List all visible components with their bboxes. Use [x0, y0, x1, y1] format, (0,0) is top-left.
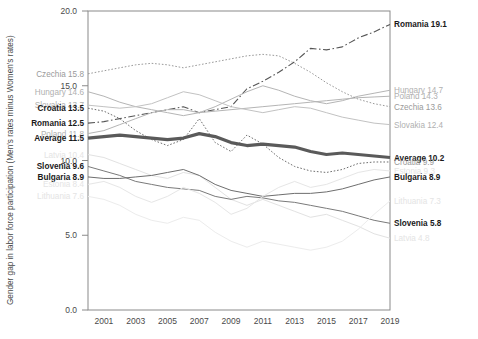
series-line-latvia: [88, 155, 390, 239]
series-label-left: Romania 12.5: [31, 119, 84, 128]
x-tick-label: 2017: [349, 316, 368, 326]
series-line-average: [88, 134, 390, 158]
y-tick-label: 20.0: [60, 6, 77, 16]
x-tick-label: 2011: [254, 316, 273, 326]
right-series-labels: Romania 19.1Hungary 14.7Poland 14.3Czech…: [394, 20, 447, 243]
x-tick-label: 2013: [285, 316, 304, 326]
series-label-left: Average 11.5: [34, 134, 84, 143]
series-label-right: Slovenia 5.8: [394, 219, 442, 228]
series-line-bulgaria: [88, 169, 390, 196]
series-label-left: Slovenia 9.6: [37, 162, 85, 171]
chart-root: Gender gap in labor force participation …: [0, 0, 478, 339]
y-axis-ticks: 0.05.010.015.020.0: [60, 6, 88, 315]
series-label-right: Estonia 9.3: [394, 167, 435, 176]
series-label-left: Estonia 8.4: [43, 180, 84, 189]
x-axis-ticks: 2001200320052007200920112013201520172019: [94, 316, 399, 326]
series-label-right: Czechia 13.6: [394, 103, 442, 112]
series-label-right: Lithuania 7.3: [394, 197, 441, 206]
y-axis-title-text: Gender gap in labor force participation …: [6, 35, 15, 305]
x-tick-label: 2007: [190, 316, 209, 326]
x-tick-label: 2015: [317, 316, 336, 326]
series-line-lithuania: [88, 196, 390, 250]
x-tick-label: 2005: [158, 316, 177, 326]
series-lines: [88, 24, 390, 250]
series-line-poland: [88, 96, 390, 133]
plot-frame: [88, 11, 390, 310]
y-axis-title: Gender gap in labor force participation …: [6, 35, 15, 305]
series-label-right: Latvia 4.8: [394, 234, 430, 243]
x-tick-label: 2003: [126, 316, 145, 326]
y-tick-label: 0.0: [65, 305, 77, 315]
series-label-left: Lithuania 7.6: [37, 192, 84, 201]
x-tick-label: 2001: [94, 316, 113, 326]
series-line-hungary: [88, 86, 390, 116]
series-label-left: Hungary 14.6: [35, 88, 85, 97]
series-label-right: Romania 19.1: [394, 20, 447, 29]
left-series-labels: Czechia 15.8Hungary 14.6Slovakia 13.7Cro…: [31, 70, 84, 202]
series-label-right: Poland 14.3: [394, 92, 438, 101]
series-label-right: Slovakia 12.4: [394, 121, 444, 130]
y-tick-label: 5.0: [65, 230, 77, 240]
line-chart: Gender gap in labor force participation …: [0, 0, 478, 339]
series-label-left: Czechia 15.8: [36, 70, 84, 79]
series-label-right: Croatia 9.9: [394, 158, 434, 167]
series-label-left: Latvia 10.4: [44, 151, 85, 160]
x-tick-label: 2009: [222, 316, 241, 326]
x-tick-label: 2019: [381, 316, 400, 326]
series-label-left: Croatia 13.5: [38, 104, 85, 113]
